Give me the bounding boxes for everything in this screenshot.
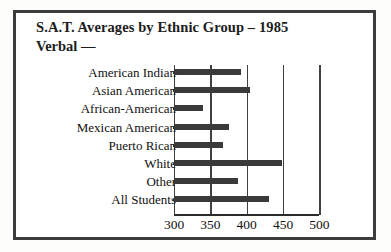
x-tick-label-300: 300 [164, 217, 184, 233]
category-label-other: Other [146, 174, 176, 189]
chart-frame-border: S.A.T. Averages by Ethnic Group – 1985 V… [13, 10, 376, 240]
x-axis-tick-labels: 300350400450500 [16, 217, 379, 237]
x-tick-label-400: 400 [237, 217, 257, 233]
bar-puerto-rican [174, 142, 223, 148]
x-tick-label-350: 350 [200, 217, 220, 233]
bar-asian-american [174, 87, 250, 93]
chart-title-block: S.A.T. Averages by Ethnic Group – 1985 V… [36, 19, 366, 55]
bar-mexican-american [174, 124, 229, 130]
chart-row: White [16, 156, 379, 174]
chart-row: American Indian [16, 65, 379, 83]
sat-averages-chart-figure: S.A.T. Averages by Ethnic Group – 1985 V… [0, 0, 391, 252]
category-label-american-indian: American Indian [88, 65, 176, 80]
bar-african-american [174, 105, 203, 111]
chart-row: Mexican American [16, 120, 379, 138]
plot-area: American IndianAsian AmericanAfrican-Ame… [16, 65, 379, 240]
chart-row: All Students [16, 192, 379, 210]
category-label-puerto-rican: Puerto Rican [108, 138, 176, 153]
bar-american-indian [174, 69, 241, 75]
bar-all-students [174, 196, 269, 202]
chart-row: Puerto Rican [16, 138, 379, 156]
category-label-asian-american: Asian American [92, 83, 176, 98]
page-title: S.A.T. Averages by Ethnic Group – 1985 [36, 19, 366, 36]
chart-row: African-American [16, 101, 379, 119]
bar-other [174, 178, 238, 184]
x-axis-line [174, 214, 319, 216]
chart-row: Asian American [16, 83, 379, 101]
category-label-mexican-american: Mexican American [77, 120, 176, 135]
x-tick-label-500: 500 [309, 217, 329, 233]
chart-row: Other [16, 174, 379, 192]
category-label-african-american: African-American [81, 101, 176, 116]
x-tick-label-450: 450 [273, 217, 293, 233]
category-label-all-students: All Students [111, 192, 176, 207]
chart-subtitle: Verbal — [36, 38, 366, 55]
bar-white [174, 160, 282, 166]
category-label-white: White [144, 156, 176, 171]
